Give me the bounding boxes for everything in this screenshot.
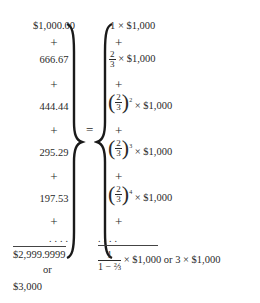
right-term-1-mult: × $1,000 <box>118 20 155 31</box>
right-term-1-coef: 1 <box>110 20 115 31</box>
right-term-4: (23)3 × $1,000 <box>108 137 172 159</box>
right-result: 1 1 − ⅔ × $1,000 or 3 × $1,000 <box>98 249 220 272</box>
right-term-5: (23)4 × $1,000 <box>108 183 172 205</box>
right-ellipsis: .... <box>98 233 120 244</box>
right-term-4-mult: × $1,000 <box>135 146 172 157</box>
fraction-two-thirds: 2 3 <box>109 50 116 69</box>
right-term-2-mult: × $1,000 <box>118 53 155 64</box>
right-brace-icon <box>66 22 86 262</box>
equals-sign: = <box>86 122 93 138</box>
right-sum-rule <box>98 245 158 246</box>
left-total: $2,999.9999 <box>13 249 66 260</box>
right-term-1: 1 × $1,000 <box>110 20 155 31</box>
result-tail: × $1,000 or 3 × $1,000 <box>124 254 221 265</box>
result-fraction: 1 1 − ⅔ <box>98 249 121 272</box>
right-term-3-mult: × $1,000 <box>135 100 172 111</box>
left-sum-rule <box>13 246 66 247</box>
right-plus-1: + <box>115 36 122 49</box>
right-term-5-mult: × $1,000 <box>135 192 172 203</box>
right-term-3: (23)2 × $1,000 <box>108 91 172 113</box>
right-term-2: 2 3 × $1,000 <box>109 50 156 69</box>
right-plus-5: + <box>115 215 122 228</box>
rounded-total: $3,000 <box>13 281 42 292</box>
or-label: or <box>43 264 52 275</box>
